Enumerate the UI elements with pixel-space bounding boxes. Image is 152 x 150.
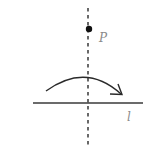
line-l-label: l	[127, 111, 131, 123]
diagram-canvas: P l	[0, 0, 152, 150]
rotation-arrow-arc	[46, 77, 121, 94]
point-p-label: P	[99, 32, 107, 44]
point-p-dot	[86, 26, 92, 32]
diagram-svg	[0, 0, 152, 150]
